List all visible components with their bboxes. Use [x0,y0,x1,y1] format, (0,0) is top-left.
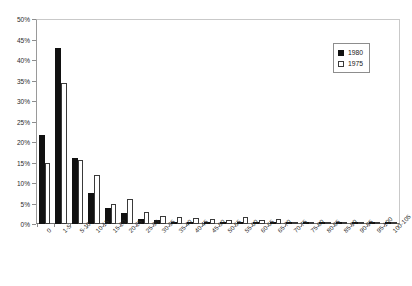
bar-group [235,19,252,224]
y-tick-mark [32,60,36,61]
bar-group [54,19,71,224]
bar-group [120,19,137,224]
x-tick-mark [285,224,286,227]
legend: 1980 1975 [333,43,370,73]
x-tick-mark [153,224,154,227]
bar-group [37,19,54,224]
bar-group [285,19,302,224]
y-tick-mark [32,183,36,184]
y-tick-label: 20% [17,139,30,146]
y-tick-label: 45% [17,36,30,43]
x-tick-mark [219,224,220,227]
x-tick-mark [136,224,137,227]
x-tick-mark [54,224,55,227]
bar-group [384,19,401,224]
bar-group [268,19,285,224]
y-tick-mark [32,163,36,164]
legend-item-1980: 1980 [338,47,363,58]
bar-group [202,19,219,224]
y-tick-mark [32,19,36,20]
bar-group [169,19,186,224]
y-tick-label: 50% [17,16,30,23]
legend-label-1980: 1980 [348,49,363,57]
bar-1975 [45,163,51,225]
x-tick-mark [103,224,104,227]
x-tick-mark [169,224,170,227]
x-tick-mark [334,224,335,227]
y-tick-label: 30% [17,98,30,105]
bar-group [301,19,318,224]
y-axis: 0%5%10%15%20%25%30%35%40%45%50% [0,19,30,224]
x-tick-mark [367,224,368,227]
y-tick-label: 0% [21,221,30,228]
y-tick-mark [32,224,36,225]
x-tick-mark [37,224,38,227]
y-tick-label: 15% [17,159,30,166]
bar-chart: 0%5%10%15%20%25%30%35%40%45%50% 01-55-10… [0,0,412,286]
x-tick-mark [252,224,253,227]
y-tick-mark [32,142,36,143]
x-tick-mark [120,224,121,227]
bar-group [186,19,203,224]
y-tick-label: 5% [21,200,30,207]
bar-1975 [127,199,133,224]
bar-group [70,19,87,224]
bar-1975 [78,160,84,224]
bar-1975 [94,175,100,224]
y-tick-mark [32,81,36,82]
legend-swatch-1980 [338,50,344,56]
bar-group [136,19,153,224]
x-tick-mark [384,224,385,227]
x-tick-mark [70,224,71,227]
bar-group [153,19,170,224]
y-tick-label: 35% [17,77,30,84]
x-tick-mark [235,224,236,227]
bar-1975 [61,83,67,224]
bar-group [219,19,236,224]
legend-swatch-1975 [338,61,344,67]
x-tick-mark [202,224,203,227]
y-tick-mark [32,40,36,41]
bar-1975 [111,204,117,225]
bar-group [318,19,335,224]
legend-label-1975: 1975 [348,60,363,68]
x-tick-mark [268,224,269,227]
bar-group [87,19,104,224]
x-tick-mark [301,224,302,227]
y-tick-mark [32,101,36,102]
bar-1975 [144,212,150,224]
x-tick-label: 0 [45,227,52,234]
y-tick-mark [32,204,36,205]
x-tick-mark [351,224,352,227]
bar-group [252,19,269,224]
x-tick-mark [186,224,187,227]
x-tick-mark [318,224,319,227]
x-tick-mark [87,224,88,227]
y-tick-label: 10% [17,180,30,187]
y-tick-mark [32,122,36,123]
y-tick-label: 40% [17,57,30,64]
legend-item-1975: 1975 [338,58,363,69]
y-tick-label: 25% [17,118,30,125]
x-axis: 01-55-1010-1515-2020-2525-3030-3535-4040… [37,226,400,284]
bar-group [103,19,120,224]
